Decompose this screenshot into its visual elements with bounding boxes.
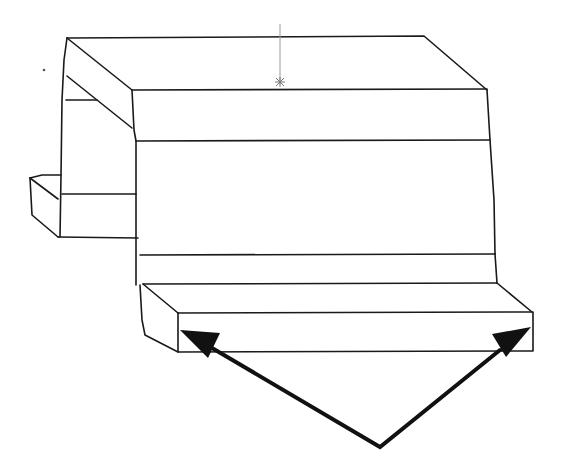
box-top-slant <box>30 178 58 199</box>
origin-marker <box>43 24 285 87</box>
stray-dot <box>43 69 46 72</box>
upper-face <box>132 90 495 285</box>
top-front-edge <box>132 89 487 90</box>
box-left-edge <box>30 178 58 237</box>
arrowhead-left-icon <box>180 330 220 358</box>
box-bottom-edge <box>58 237 138 238</box>
right-vertical-edge <box>487 90 495 254</box>
cad-drawing <box>0 0 563 473</box>
left-stem <box>30 38 138 238</box>
left-outer-edge <box>60 38 67 237</box>
lower-upper-edge <box>140 254 495 255</box>
arrow-shafts <box>212 348 500 447</box>
ledge-back-edge <box>143 283 497 284</box>
left-column-edge <box>132 90 136 285</box>
top-left-slant <box>67 38 132 90</box>
ledge-left-slant <box>143 284 178 313</box>
ledge-right-slant <box>497 283 532 312</box>
inner-left-slant <box>67 76 132 128</box>
ledge-front-face <box>178 312 533 352</box>
mid-horizontal-edge <box>136 140 490 141</box>
lower-right-edge <box>495 254 497 283</box>
ledge-front-top-edge <box>178 312 532 313</box>
origin-star-icon <box>275 77 285 87</box>
ledge-left-side <box>140 285 178 352</box>
callout-arrows <box>180 327 531 447</box>
box-top-edge <box>30 175 61 178</box>
